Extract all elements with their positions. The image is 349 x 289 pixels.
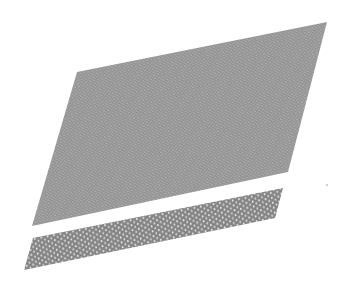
lattice-figure: [0, 0, 349, 289]
upper-lattice-layer: [32, 22, 327, 226]
stray-speck: [326, 184, 328, 186]
